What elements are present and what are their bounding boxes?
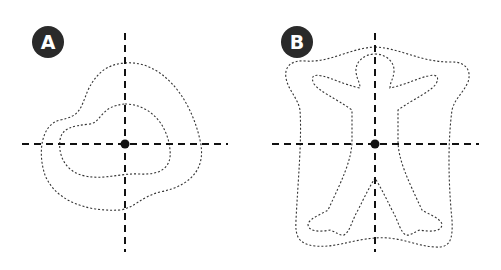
center-point — [121, 140, 130, 149]
inner-contour — [60, 104, 171, 177]
panel-a: A — [0, 0, 250, 270]
outer-contour — [41, 63, 201, 210]
center-point — [371, 140, 380, 149]
figure-diagram — [250, 0, 501, 270]
blob-diagram — [0, 0, 250, 270]
panel-b: B — [250, 0, 500, 270]
